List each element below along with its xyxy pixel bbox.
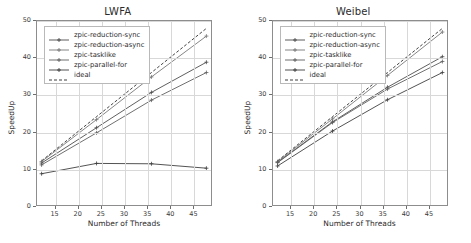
legend-line-sample-icon [48,30,70,40]
data-point-marker [40,163,44,167]
ytick-mark [33,57,36,58]
gridline-vertical [430,21,431,205]
xtick-mark [78,206,79,209]
gridline-horizontal [37,21,211,22]
gridline-horizontal [37,95,211,96]
legend-line-sample-icon [284,40,306,50]
xtick-mark [336,206,337,209]
ytick-label: 50 [12,16,31,24]
xtick-label: 20 [309,210,317,218]
xlabel-weibel: Number of Threads [272,219,448,228]
data-point-marker [149,162,153,166]
legend-line-sample-icon [48,60,70,70]
legend-item-zpic-reduction-sync[interactable]: zpic-reduction-sync [284,30,380,40]
gridline-horizontal [273,133,447,134]
ylabel-weibel: SpeedUp [242,83,251,153]
xtick-mark [124,206,125,209]
panel-lwfa: LWFA 1520253035404501020304050 Number of… [0,0,236,243]
xtick-mark [290,206,291,209]
ytick-mark [269,206,272,207]
legend-label: zpic-parallel-for [74,60,127,70]
xlabel-lwfa: Number of Threads [36,219,212,228]
legend-line-sample-icon [48,50,70,60]
xtick-label: 35 [379,210,387,218]
gridline-horizontal [37,133,211,134]
legend-line-sample-icon [284,30,306,40]
xtick-label: 25 [97,210,105,218]
panel-title-lwfa: LWFA [0,6,236,17]
ytick-label: 50 [248,16,267,24]
gridline-horizontal [273,21,447,22]
legend-label: zpic-parallel-for [310,60,363,70]
data-point-marker [40,172,44,176]
ytick-label: 10 [248,165,267,173]
ytick-label: 10 [12,165,31,173]
ytick-label: 0 [12,202,31,210]
legend-line-sample-icon [284,70,306,80]
legend-item-zpic-tasklike[interactable]: zpic-tasklike [48,50,144,60]
xtick-label: 30 [120,210,128,218]
series-line-zpic-parallel-for [42,163,207,173]
xtick-mark [101,206,102,209]
legend-item-zpic-reduction-sync[interactable]: zpic-reduction-sync [48,30,144,40]
xtick-label: 15 [50,210,58,218]
data-point-marker [440,60,444,64]
gridline-horizontal [273,170,447,171]
data-point-marker [385,98,389,102]
xtick-mark [406,206,407,209]
ytick-mark [269,20,272,21]
legend-label: zpic-reduction-async [74,40,144,50]
legend-line-sample-icon [48,40,70,50]
legend-item-zpic-parallel-for[interactable]: zpic-parallel-for [48,60,144,70]
xtick-mark [429,206,430,209]
ytick-mark [33,169,36,170]
legend-label: zpic-tasklike [74,50,116,60]
gridline-horizontal [37,170,211,171]
ytick-mark [33,20,36,21]
ytick-label: 40 [248,53,267,61]
data-point-marker [204,60,208,64]
ytick-label: 0 [248,202,267,210]
panel-weibel: Weibel 1520253035404501020304050 Number … [236,0,471,243]
legend-label: zpic-tasklike [310,50,352,60]
legend-item-zpic-reduction-async[interactable]: zpic-reduction-async [48,40,144,50]
xtick-label: 25 [332,210,340,218]
xtick-label: 40 [402,210,410,218]
ytick-mark [269,169,272,170]
series-line-zpic-tasklike [42,73,207,165]
xtick-label: 15 [286,210,294,218]
xtick-mark [170,206,171,209]
legend-label: ideal [74,70,90,80]
xtick-label: 45 [425,210,433,218]
ytick-mark [33,94,36,95]
legend-item-zpic-reduction-async[interactable]: zpic-reduction-async [284,40,380,50]
legend-line-sample-icon [48,70,70,80]
xtick-mark [360,206,361,209]
gridline-vertical [194,21,195,205]
figure-two-panel-speedup: LWFA 1520253035404501020304050 Number of… [0,0,471,243]
legend-item-zpic-parallel-for[interactable]: zpic-parallel-for [284,60,380,70]
data-point-marker [440,71,444,75]
legend-line-sample-icon [284,60,306,70]
data-point-marker [95,161,99,165]
ytick-mark [269,132,272,133]
legend-label: zpic-reduction-async [310,40,380,50]
xtick-mark [147,206,148,209]
gridline-vertical [407,21,408,205]
legend-line-sample-icon [284,50,306,60]
legend-lwfa: zpic-reduction-synczpic-reduction-asyncz… [44,26,150,84]
ytick-mark [269,57,272,58]
xtick-label: 40 [166,210,174,218]
legend-item-zpic-tasklike[interactable]: zpic-tasklike [284,50,380,60]
ylabel-lwfa: SpeedUp [7,83,16,153]
xtick-label: 20 [74,210,82,218]
xtick-label: 35 [143,210,151,218]
data-point-marker [149,98,153,102]
legend-item-ideal[interactable]: ideal [284,70,380,80]
ytick-mark [269,94,272,95]
gridline-vertical [171,21,172,205]
xtick-mark [383,206,384,209]
series-line-zpic-parallel-for [277,73,442,166]
xtick-mark [55,206,56,209]
legend-item-ideal[interactable]: ideal [48,70,144,80]
